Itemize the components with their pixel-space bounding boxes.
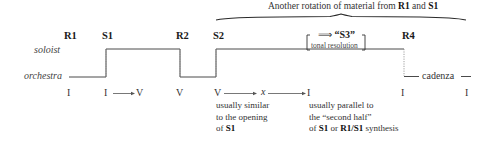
note-s3-line3-suffix: synthesis <box>363 123 398 133</box>
brace <box>216 14 466 20</box>
note-s3-line3-bold2: R1/S1 <box>340 123 363 133</box>
section-s1: S1 <box>102 30 113 41</box>
key-s2-start: V <box>214 87 221 98</box>
role-soloist: soloist <box>34 44 60 55</box>
section-r2: R2 <box>176 30 189 41</box>
cadenza-label: cadenza <box>422 70 454 81</box>
brace-label-s1: S1 <box>428 1 438 11</box>
key-s1-end: V <box>136 87 143 98</box>
key-r1: I <box>67 87 70 98</box>
brace-label-text: Another rotation of material from <box>268 1 398 11</box>
s3-sublabel: tonal resolution <box>311 41 358 50</box>
note-s2-line2: to the opening <box>216 112 306 124</box>
note-s3-line3-prefix: of <box>309 123 319 133</box>
section-s2: S2 <box>213 30 224 41</box>
note-s2-line3-bold: S1 <box>226 123 236 133</box>
implies-arrow-icon: ⟹ <box>318 29 332 40</box>
s3-name: “S3” <box>335 29 356 40</box>
note-s3-line3: of S1 or R1/S1 synthesis <box>309 123 439 135</box>
brace-label-r1: R1 <box>398 1 410 11</box>
key-s2-end: I <box>307 87 310 98</box>
note-s2-line1: usually similar <box>216 100 306 112</box>
brace-label: Another rotation of material from R1 and… <box>268 1 438 11</box>
note-s3-line1: usually parallel to <box>309 100 439 112</box>
note-s3: usually parallel to the “second half” of… <box>309 100 439 135</box>
brace-label-and: and <box>410 1 428 11</box>
note-s3-line3-mid: or <box>328 123 340 133</box>
key-r2: V <box>176 87 183 98</box>
key-s1-start: I <box>104 87 107 98</box>
s3-label: ⟹ “S3” <box>318 29 355 40</box>
section-r1: R1 <box>64 30 77 41</box>
texture-line <box>69 49 404 77</box>
note-s2: usually similar to the opening of S1 <box>216 100 306 135</box>
note-s3-line2: the “second half” <box>309 112 439 124</box>
note-s3-line3-bold1: S1 <box>319 123 329 133</box>
section-r4: R4 <box>402 30 415 41</box>
role-orchestra: orchestra <box>24 70 62 81</box>
key-r4: I <box>401 87 404 98</box>
key-s2-mid: x <box>261 86 265 97</box>
key-final: I <box>465 87 468 98</box>
note-s2-line3: of S1 <box>216 123 306 135</box>
note-s2-line3-prefix: of <box>216 123 226 133</box>
